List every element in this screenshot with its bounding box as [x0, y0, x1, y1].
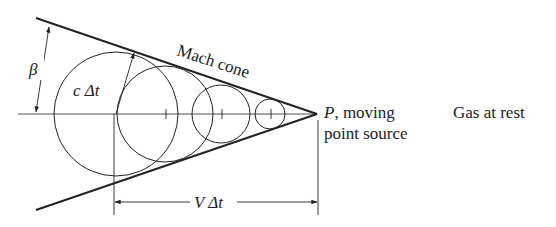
v-dt-label: V Δt	[194, 193, 224, 212]
c-dt-radius-arrow	[116, 53, 134, 114]
point-source-label-line1: P, moving	[323, 103, 395, 122]
mach-cone-label: Mach cone	[175, 41, 252, 82]
gas-at-rest-label: Gas at rest	[453, 103, 525, 122]
point-source-label-line2: point source	[324, 124, 408, 143]
beta-label: β	[28, 60, 38, 79]
p-symbol: P	[323, 103, 334, 122]
mach-cone-diagram: β c Δt Mach cone P, moving point source …	[0, 0, 556, 227]
p-label-rest: , moving	[334, 103, 395, 122]
c-dt-label: c Δt	[73, 81, 101, 100]
